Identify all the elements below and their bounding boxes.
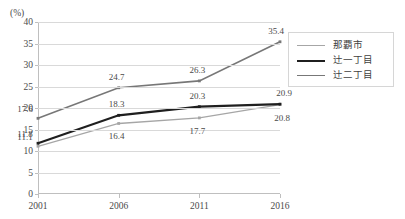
data-point-marker: [37, 142, 40, 145]
gridline: [38, 44, 280, 45]
legend-label: 那覇市: [333, 41, 363, 51]
legend-label: 辻一丁目: [333, 56, 373, 66]
series-line-2: [38, 42, 280, 119]
y-axis-tick-label: 10: [24, 146, 34, 156]
gridline: [38, 173, 280, 174]
legend-line-swatch: [297, 45, 325, 46]
y-axis-tick-mark: [35, 65, 38, 66]
y-axis-tick-label: 0: [28, 189, 33, 199]
y-axis-tick-mark: [35, 173, 38, 174]
data-point-label: 24.7: [109, 72, 125, 82]
data-point-label: 18.3: [109, 99, 125, 109]
x-axis-tick-mark: [199, 194, 200, 198]
data-point-marker: [279, 103, 282, 106]
legend-line-swatch: [297, 75, 325, 76]
gridline: [38, 65, 280, 66]
chart-legend: 那覇市辻一丁目辻二丁目: [288, 32, 394, 87]
gridline: [38, 108, 280, 109]
data-point-marker: [117, 114, 120, 117]
data-point-label: 20.8: [274, 113, 290, 123]
line-chart: (%) 0510152025303540200120062011201611.1…: [0, 0, 405, 219]
legend-line-swatch: [297, 60, 325, 62]
y-axis-tick-label: 5: [28, 168, 33, 178]
y-axis-tick-mark: [35, 108, 38, 109]
gridline: [38, 130, 280, 131]
data-point-label: 16.4: [109, 131, 125, 141]
y-axis-tick-label: 40: [24, 17, 34, 27]
data-point-marker: [198, 80, 201, 83]
y-axis-tick-mark: [35, 87, 38, 88]
gridline: [38, 151, 280, 152]
y-axis-tick-label: 25: [24, 82, 34, 92]
y-axis-tick-mark: [35, 130, 38, 131]
data-point-label: 26.3: [189, 65, 205, 75]
x-axis-tick-mark: [38, 194, 39, 198]
data-point-label: 11.8: [17, 129, 32, 139]
x-axis-tick-mark: [119, 194, 120, 198]
y-axis-tick-mark: [35, 151, 38, 152]
legend-label: 辻二丁目: [333, 71, 373, 81]
x-axis-tick-label: 2016: [271, 201, 290, 211]
data-point-marker: [37, 117, 40, 120]
legend-item-0[interactable]: 那覇市: [289, 38, 393, 53]
data-point-marker: [37, 145, 40, 148]
y-axis-unit-label: (%): [10, 8, 24, 18]
data-point-label: 35.4: [268, 26, 284, 36]
y-axis-tick-label: 30: [24, 60, 34, 70]
x-axis-tick-label: 2006: [109, 201, 128, 211]
x-axis-tick-label: 2011: [190, 201, 209, 211]
x-axis-tick-label: 2001: [29, 201, 48, 211]
legend-item-1[interactable]: 辻一丁目: [289, 53, 393, 68]
y-axis-tick-mark: [35, 44, 38, 45]
y-axis-tick-label: 35: [24, 39, 34, 49]
plot-area: 0510152025303540200120062011201611.116.4…: [38, 22, 280, 194]
data-point-label: 17.7: [189, 126, 205, 136]
gridline: [38, 22, 280, 23]
data-point-label: 20.3: [189, 91, 205, 101]
y-axis-tick-mark: [35, 22, 38, 23]
data-point-marker: [198, 116, 201, 119]
data-point-marker: [117, 122, 120, 125]
data-point-label: 20.9: [276, 88, 292, 98]
gridline: [38, 87, 280, 88]
legend-item-2[interactable]: 辻二丁目: [289, 68, 393, 83]
data-point-label: 17.6: [17, 104, 33, 114]
x-axis-tick-mark: [280, 194, 281, 198]
